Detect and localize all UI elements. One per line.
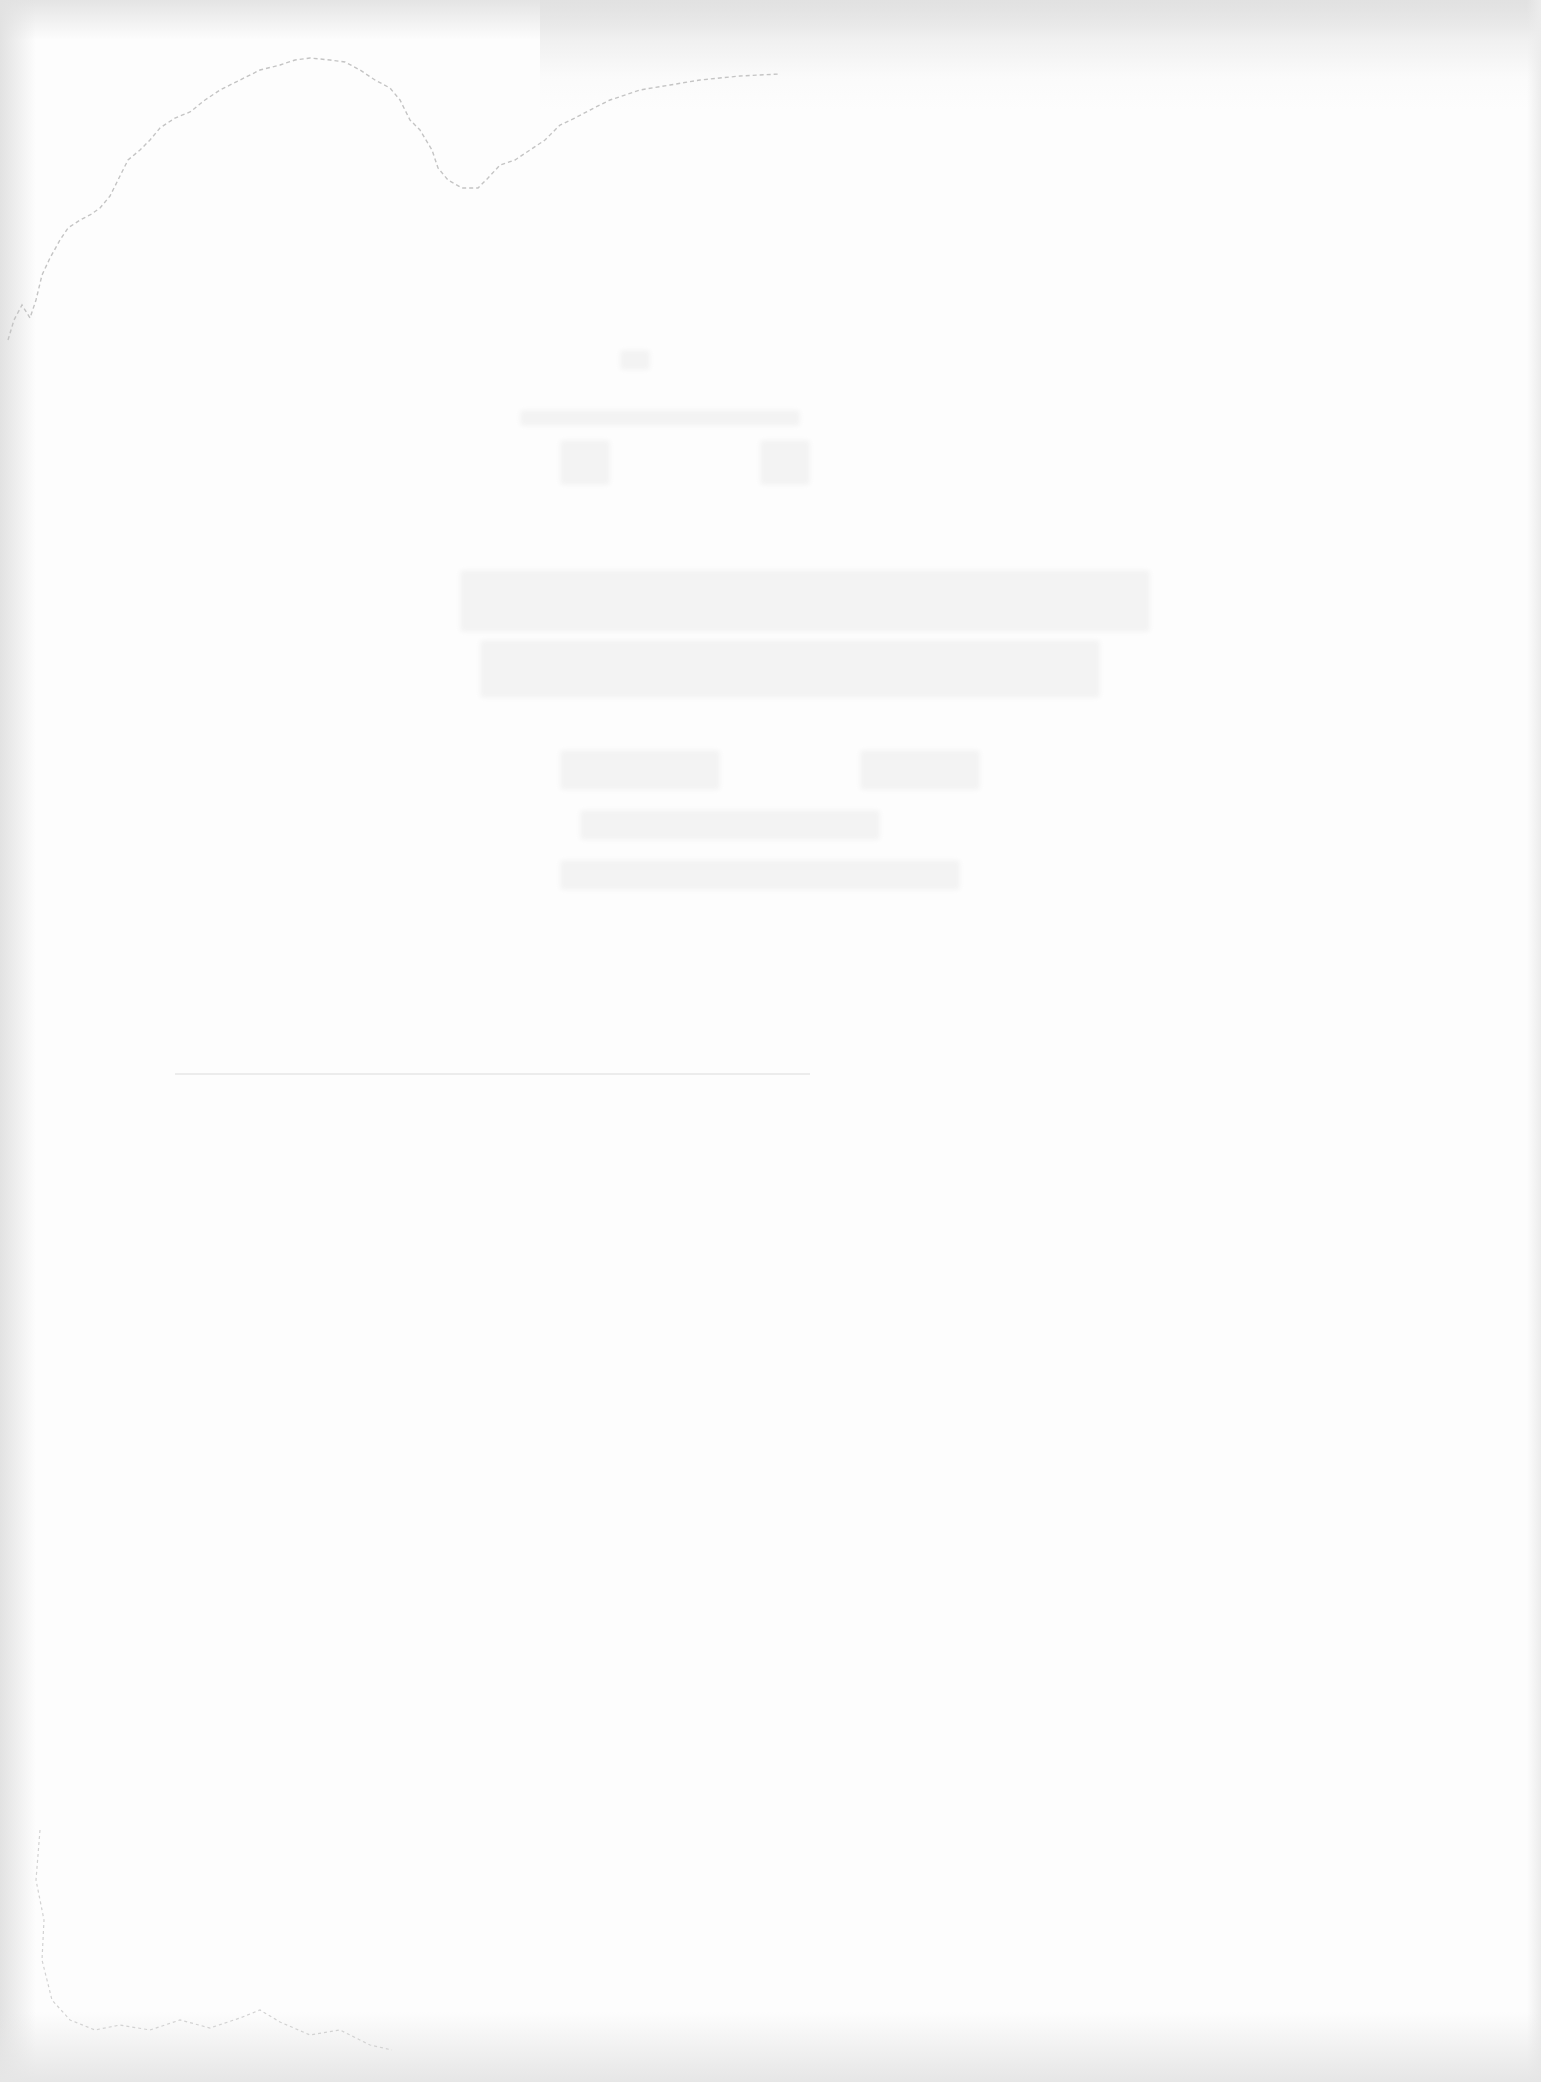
torn-edge-mark — [0, 0, 1541, 2082]
bleed-through-body-2 — [860, 750, 980, 790]
bleed-through-subtitle — [520, 410, 800, 426]
bleed-through-title-line-2 — [480, 640, 1100, 698]
bleed-through-body-3 — [580, 810, 880, 840]
bleed-through-mark-left — [560, 440, 610, 485]
bleed-through-mark-right — [760, 440, 810, 485]
faint-rule-line — [175, 1073, 810, 1075]
bleed-through-body-4 — [560, 860, 960, 890]
blank-page — [0, 0, 1541, 2082]
bleed-through-title-line-1 — [460, 570, 1150, 632]
bleed-through-body-1 — [560, 750, 720, 790]
bleed-through-small-heading — [620, 350, 650, 370]
